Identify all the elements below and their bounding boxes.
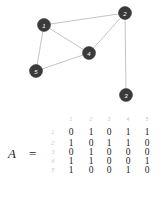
- edge-4-5: [36, 53, 89, 71]
- node-label: 1: [42, 23, 45, 29]
- matrix-cell: 0: [142, 165, 152, 175]
- column-header: 5: [142, 116, 152, 122]
- column-header: 1: [66, 116, 76, 122]
- node-1: 1: [38, 19, 51, 32]
- edge-1-4: [44, 25, 89, 53]
- node-3: 3: [120, 89, 133, 102]
- graph-diagram: 12345: [0, 0, 160, 110]
- equals-sign: =: [29, 146, 36, 162]
- node-4: 4: [83, 47, 96, 60]
- node-5: 5: [30, 65, 43, 78]
- row-header: 3: [48, 149, 58, 155]
- matrix-cell: 0: [104, 127, 114, 137]
- row-header: 2: [48, 140, 58, 146]
- row-header: 4: [48, 158, 58, 164]
- matrix-cell: 1: [123, 165, 133, 175]
- matrix-cell: 1: [123, 127, 133, 137]
- node-label: 2: [122, 11, 127, 17]
- graph-nodes: 12345: [30, 7, 133, 102]
- matrix-cell: 1: [86, 127, 96, 137]
- column-header: 2: [86, 116, 96, 122]
- matrix-cell: 1: [142, 127, 152, 137]
- row-header: 5: [48, 167, 58, 173]
- matrix-cell: 1: [66, 165, 76, 175]
- matrix-cell: 0: [86, 165, 96, 175]
- edge-1-2: [44, 13, 125, 25]
- edge-1-5: [36, 25, 44, 71]
- row-header: 1: [48, 129, 58, 135]
- matrix-name: A: [8, 146, 16, 162]
- edge-2-3: [125, 13, 126, 95]
- column-header: 3: [104, 116, 114, 122]
- matrix-cell: 0: [66, 127, 76, 137]
- column-header: 4: [123, 116, 133, 122]
- matrix-cell: 0: [104, 165, 114, 175]
- node-2: 2: [119, 7, 132, 20]
- edge-2-4: [89, 13, 125, 53]
